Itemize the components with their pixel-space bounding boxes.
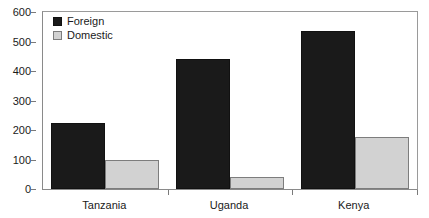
chart-legend: Foreign Domestic <box>53 16 113 41</box>
x-axis-tick-label: Kenya <box>338 200 369 211</box>
bar-kenya-foreign <box>301 31 355 189</box>
x-axis-tick-mark <box>168 190 169 195</box>
y-axis-tick-mark <box>31 160 36 161</box>
y-axis-tick-mark <box>31 189 36 190</box>
y-axis-tick-mark <box>31 101 36 102</box>
bar-tanzania-domestic <box>105 160 159 190</box>
y-axis-tick-mark <box>31 12 36 13</box>
bar-kenya-domestic <box>355 137 409 189</box>
bar-tanzania-foreign <box>51 123 105 189</box>
y-axis: 0100200300400500600 <box>0 0 42 218</box>
x-axis-tick-label: Tanzania <box>82 200 126 211</box>
legend-item-foreign: Foreign <box>53 16 113 27</box>
y-axis-tick-label: 600 <box>13 7 31 18</box>
y-axis-tick-mark <box>31 71 36 72</box>
legend-label-domestic: Domestic <box>67 30 113 41</box>
y-axis-tick-label: 300 <box>13 95 31 106</box>
bar-uganda-domestic <box>230 177 284 189</box>
y-axis-tick-label: 200 <box>13 125 31 136</box>
x-axis-tick-mark <box>292 190 293 195</box>
legend-swatch-domestic-icon <box>53 31 62 40</box>
x-axis-tick-label: Uganda <box>210 200 249 211</box>
legend-swatch-foreign-icon <box>53 17 62 26</box>
bar-uganda-foreign <box>176 59 230 189</box>
y-axis-tick-mark <box>31 130 36 131</box>
legend-item-domestic: Domestic <box>53 30 113 41</box>
y-axis-tick-label: 500 <box>13 36 31 47</box>
y-axis-tick-label: 400 <box>13 66 31 77</box>
legend-label-foreign: Foreign <box>67 16 104 27</box>
x-axis-tick-mark <box>417 190 418 195</box>
x-axis: TanzaniaUgandaKenya <box>42 196 418 218</box>
y-axis-tick-label: 100 <box>13 154 31 165</box>
bar-chart: 0100200300400500600 TanzaniaUgandaKenya … <box>0 0 429 218</box>
y-axis-tick-mark <box>31 42 36 43</box>
